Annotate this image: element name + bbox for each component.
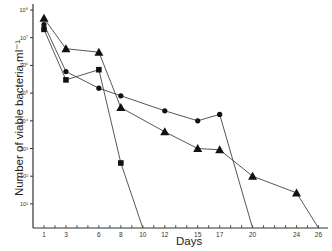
triangle-marker [193,144,202,152]
triangle-marker [248,172,257,180]
triangle-marker [39,14,48,22]
x-tick-label: 26 [315,231,323,238]
x-tick-label: 17 [216,231,224,238]
plot-svg: 10⁸10⁷10⁶10⁵10⁴10³10²10¹1368101215172024… [0,0,332,251]
x-tick-label: 3 [64,231,68,238]
x-tick-label: 6 [97,231,101,238]
circle-marker [195,118,200,123]
circle-marker [118,93,123,98]
triangle-marker [61,44,70,52]
circle-marker [41,22,46,27]
triangle-marker [116,103,125,111]
x-tick-label: 10 [139,231,147,238]
series-line-circle [44,24,253,228]
triangle-marker [292,188,301,196]
x-tick-label: 12 [161,231,169,238]
x-tick-label: 24 [293,231,301,238]
square-marker [63,77,69,83]
circle-marker [217,112,222,117]
circle-marker [63,69,68,74]
chart-area: 10⁸10⁷10⁶10⁵10⁴10³10²10¹1368101215172024… [0,0,332,251]
series-line-square [44,29,143,228]
x-tick-label: 20 [249,231,257,238]
y-axis-label: Number of viable bacteria.ml⁻¹ [12,28,28,208]
triangle-marker [160,127,169,135]
circle-marker [162,108,167,113]
x-axis-label: Days [176,235,202,247]
series-line-triangle [44,18,319,228]
circle-marker [96,86,101,91]
x-tick-label: 1 [42,231,46,238]
x-tick-label: 8 [119,231,123,238]
square-marker [41,27,47,33]
square-marker [96,67,102,73]
square-marker [118,160,124,166]
y-tick-label: 10⁸ [20,7,28,13]
